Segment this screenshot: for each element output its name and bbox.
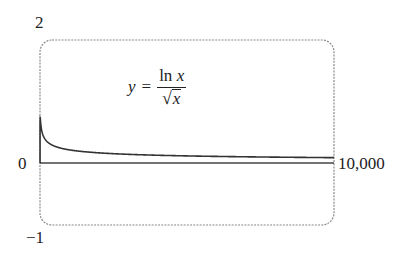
formula-lhs: y	[128, 77, 136, 97]
formula-den-var: x	[172, 89, 182, 107]
formula-num-var: x	[177, 66, 185, 85]
function-formula: y = ln x √ x	[128, 66, 186, 107]
sqrt-icon: √	[162, 89, 172, 107]
formula-denominator: √ x	[162, 88, 181, 107]
y-min-label: −1	[26, 229, 44, 246]
function-curve	[40, 118, 334, 163]
formula-numerator: ln x	[157, 66, 186, 88]
formula-equals: =	[142, 77, 152, 97]
y-max-label: 2	[35, 14, 44, 31]
plot-svg	[0, 0, 418, 263]
viewing-window-frame	[40, 40, 334, 225]
x-max-label: 10,000	[338, 155, 385, 172]
chart-container: 2 −1 0 10,000 y = ln x √ x	[0, 0, 418, 263]
formula-ln: ln	[159, 66, 172, 85]
formula-fraction: ln x √ x	[157, 66, 186, 107]
x-min-label: 0	[18, 155, 27, 172]
